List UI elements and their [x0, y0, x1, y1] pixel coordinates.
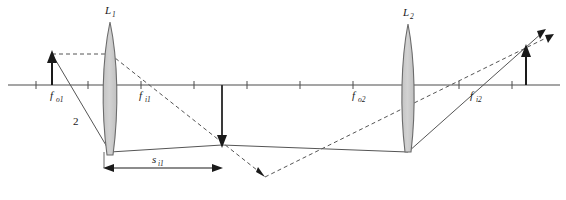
object-arrow-head — [47, 50, 57, 63]
lens-2: L 2 — [402, 6, 414, 152]
ray-arrowhead-solid-upper — [537, 29, 546, 39]
f-o2-symbol: f — [352, 89, 357, 101]
ray-dashed-into-lens2 — [265, 106, 408, 177]
dimension-s-i1: s i1 — [103, 152, 223, 172]
f-o1-subscript: o1 — [56, 95, 64, 104]
f-o1-symbol: f — [50, 89, 55, 101]
f-i1-subscript: i1 — [145, 95, 151, 104]
ray-label-2-text: 2 — [73, 115, 79, 127]
f-i2-subscript: i2 — [476, 95, 482, 104]
object-arrow — [47, 50, 57, 85]
optical-axis-group — [8, 81, 560, 89]
lens-1-label: L — [104, 4, 111, 16]
focal-label-f-o1: f o1 — [50, 89, 64, 104]
ray-arrowhead-dashed-lower — [256, 167, 265, 177]
lens-1: L 1 — [103, 4, 117, 155]
dimension-arrowhead-left — [103, 164, 114, 172]
ray-arrowhead-dashed-upper — [545, 34, 554, 43]
lens-2-body — [402, 24, 414, 152]
ray-number-label-2: 2 — [73, 115, 79, 127]
f-i2-symbol: f — [470, 89, 475, 101]
intermediate-image-arrow — [217, 85, 227, 148]
ray-lens2-output-solid — [408, 32, 543, 152]
dimension-arrowhead-right — [212, 164, 223, 172]
lens-1-body — [103, 22, 117, 155]
lens-1-sublabel: 1 — [112, 10, 116, 19]
dimension-s-i1-subscript: i1 — [158, 159, 164, 168]
lens-2-label: L — [402, 6, 409, 18]
ray-diagram-figure: L 1 L 2 f o1 — [0, 0, 566, 200]
ray-through-f-i1 — [110, 54, 262, 174]
f-i1-symbol: f — [139, 89, 144, 101]
f-o2-subscript: o2 — [358, 95, 366, 104]
focal-label-f-i1: f i1 — [139, 89, 151, 104]
ray-image-to-lens2 — [222, 145, 408, 152]
ray-lens1-to-image — [110, 145, 222, 152]
lens-2-sublabel: 2 — [410, 12, 414, 21]
dimension-s-i1-symbol: s — [152, 153, 156, 165]
optics-diagram-canvas: L 1 L 2 f o1 — [0, 0, 566, 200]
intermediate-image-arrow-head — [217, 135, 227, 148]
focal-label-f-o2: f o2 — [352, 89, 366, 104]
